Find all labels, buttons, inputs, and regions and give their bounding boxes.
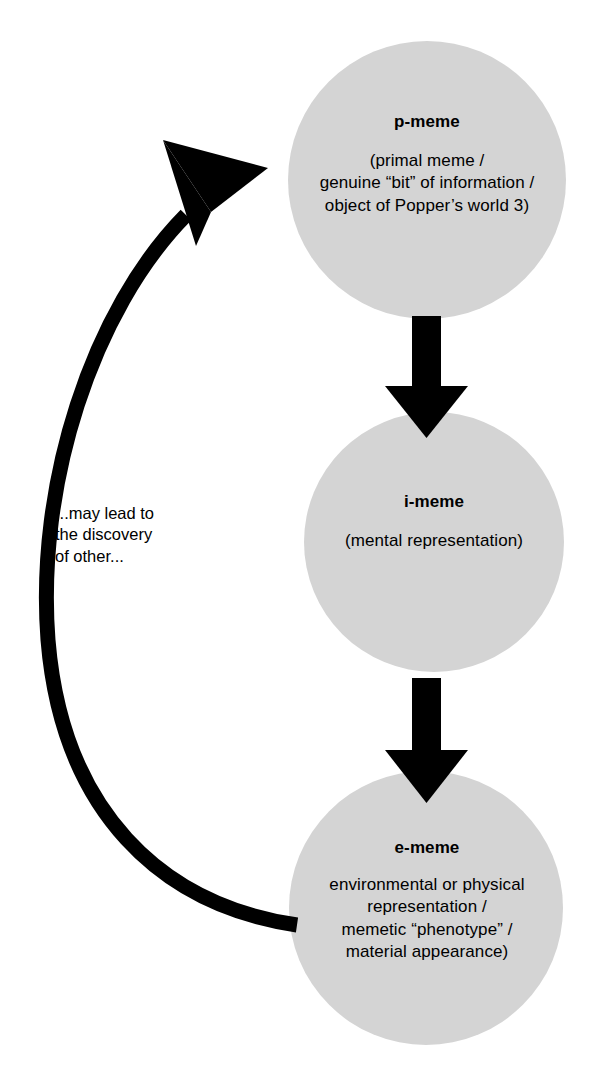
node-label-i-meme: i-meme (mental representation): [300, 492, 568, 552]
node-title-p-meme: p-meme: [288, 112, 566, 132]
node-title-i-meme: i-meme: [300, 492, 568, 512]
node-title-e-meme: e-meme: [286, 838, 568, 858]
node-body-e-meme: environmental or physical representation…: [286, 874, 568, 962]
diagram-canvas: p-meme (primal meme / genuine “bit” of i…: [0, 0, 604, 1084]
node-label-p-meme: p-meme (primal meme / genuine “bit” of i…: [288, 112, 566, 217]
node-body-i-meme: (mental representation): [300, 530, 568, 552]
edge-label-e-to-p: ...may lead to the discovery of other...: [55, 503, 205, 567]
node-body-p-meme: (primal meme / genuine “bit” of informat…: [288, 150, 566, 216]
node-label-e-meme: e-meme environmental or physical represe…: [286, 838, 568, 963]
